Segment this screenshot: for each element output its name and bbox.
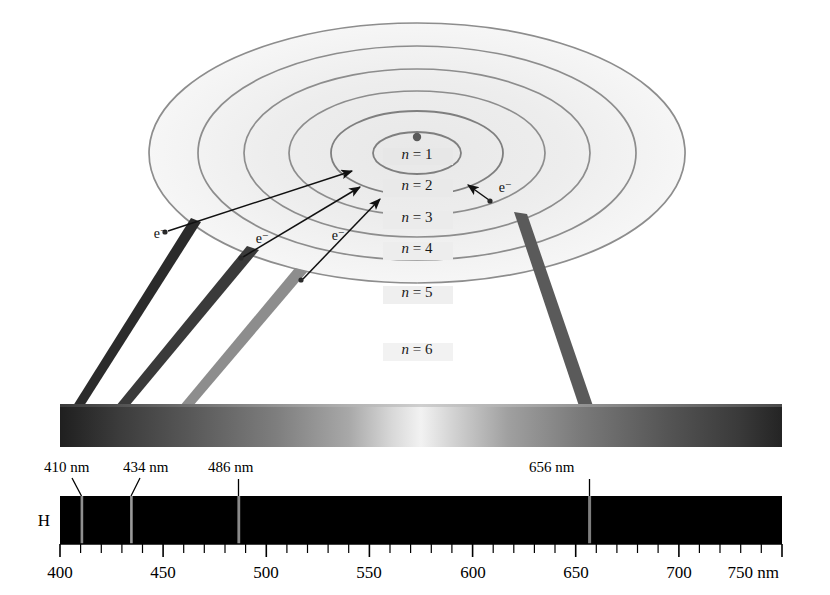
spectrum-black-band xyxy=(60,496,782,544)
orbit-label-n5: n = 5 xyxy=(402,284,433,300)
orbit-label-n3: n = 3 xyxy=(402,209,433,225)
figure-canvas: n = 1 n = 2 n = 3 n = 4 n = 5 n = 6 xyxy=(0,0,830,595)
bohr-model-emission-spectrum-figure: n = 1 n = 2 n = 3 n = 4 n = 5 n = 6 xyxy=(0,0,830,595)
line-spectrum-group: H 410 nm 434 nm 486 nm 656 nm xyxy=(38,459,782,582)
atom-orbit-diagram: n = 1 n = 2 n = 3 n = 4 n = 5 n = 6 xyxy=(149,23,685,361)
wavelength-label-486: 486 nm xyxy=(208,459,254,475)
emission-line-656 xyxy=(588,496,591,544)
orbit-label-n4: n = 4 xyxy=(402,240,433,256)
electron-label-1: e− xyxy=(154,224,166,241)
leader-410 xyxy=(72,478,82,496)
tick-label-550: 550 xyxy=(356,563,382,582)
emission-line-434 xyxy=(130,496,133,544)
tick-label-400: 400 xyxy=(47,563,73,582)
electron-dot-3 xyxy=(298,277,303,282)
wavelength-tick-labels: 400 450 500 550 600 650 700 750 nm xyxy=(47,563,779,582)
orbit-label-n2: n = 2 xyxy=(402,177,433,193)
tick-label-650: 650 xyxy=(563,563,589,582)
nucleus-dot xyxy=(413,133,421,141)
wavelength-label-410: 410 nm xyxy=(44,459,90,475)
tick-label-700: 700 xyxy=(666,563,692,582)
electron-dot-4 xyxy=(487,198,492,203)
wavelength-axis xyxy=(60,544,782,557)
continuous-spectrum-bar xyxy=(60,404,782,447)
beam-486 xyxy=(180,268,307,406)
beam-410 xyxy=(73,218,201,406)
leader-434 xyxy=(131,478,140,496)
emission-line-486 xyxy=(237,496,240,544)
orbit-label-n6: n = 6 xyxy=(402,341,433,357)
element-symbol-H: H xyxy=(38,511,50,530)
tick-label-500: 500 xyxy=(253,563,279,582)
electron-dot-2 xyxy=(238,255,243,260)
tick-label-450: 450 xyxy=(150,563,176,582)
tick-label-750: 750 nm xyxy=(728,563,779,582)
tick-label-600: 600 xyxy=(460,563,486,582)
wavelength-label-434: 434 nm xyxy=(123,459,169,475)
wavelength-label-656: 656 nm xyxy=(529,459,575,475)
emission-line-410 xyxy=(81,496,84,544)
beam-434 xyxy=(116,246,259,406)
orbit-label-n1: n = 1 xyxy=(402,146,433,162)
